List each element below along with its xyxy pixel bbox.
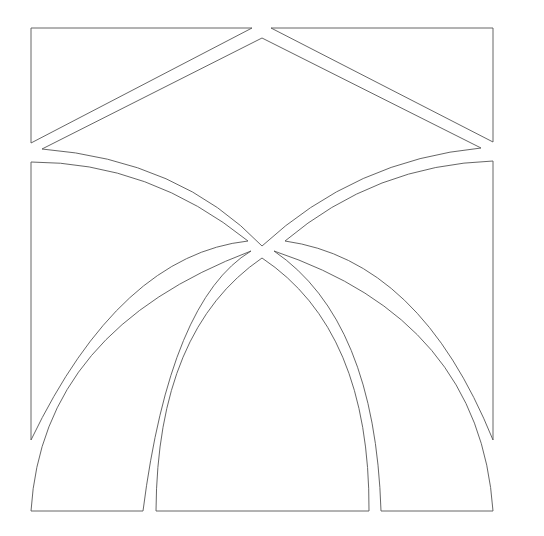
stencil-diagram xyxy=(0,0,544,536)
